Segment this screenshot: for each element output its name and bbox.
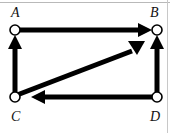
vertex-label-D: D [150,110,160,124]
vertex-A-node[interactable] [10,25,20,35]
diagram-page: A B C D [0,0,170,133]
directed-graph-canvas [0,0,170,133]
edge-D-to-B-arrowhead [150,35,164,49]
edge-D-to-C [31,90,155,104]
edge-D-to-B [150,35,164,95]
vertex-B-node[interactable] [152,25,162,35]
vertex-D-node[interactable] [152,92,162,102]
edge-A-to-B-arrowhead [138,23,152,37]
vertex-C-node[interactable] [10,92,20,102]
vertex-label-C: C [11,110,20,124]
vertex-label-B: B [150,6,159,20]
edge-A-to-B [17,23,152,37]
edge-C-to-A [8,35,22,95]
edge-C-to-B [17,41,145,95]
vertex-label-A: A [11,6,20,20]
edge-C-to-B-shaft [17,51,132,95]
edge-C-to-A-arrowhead [8,35,22,49]
edge-D-to-C-arrowhead [31,90,45,104]
